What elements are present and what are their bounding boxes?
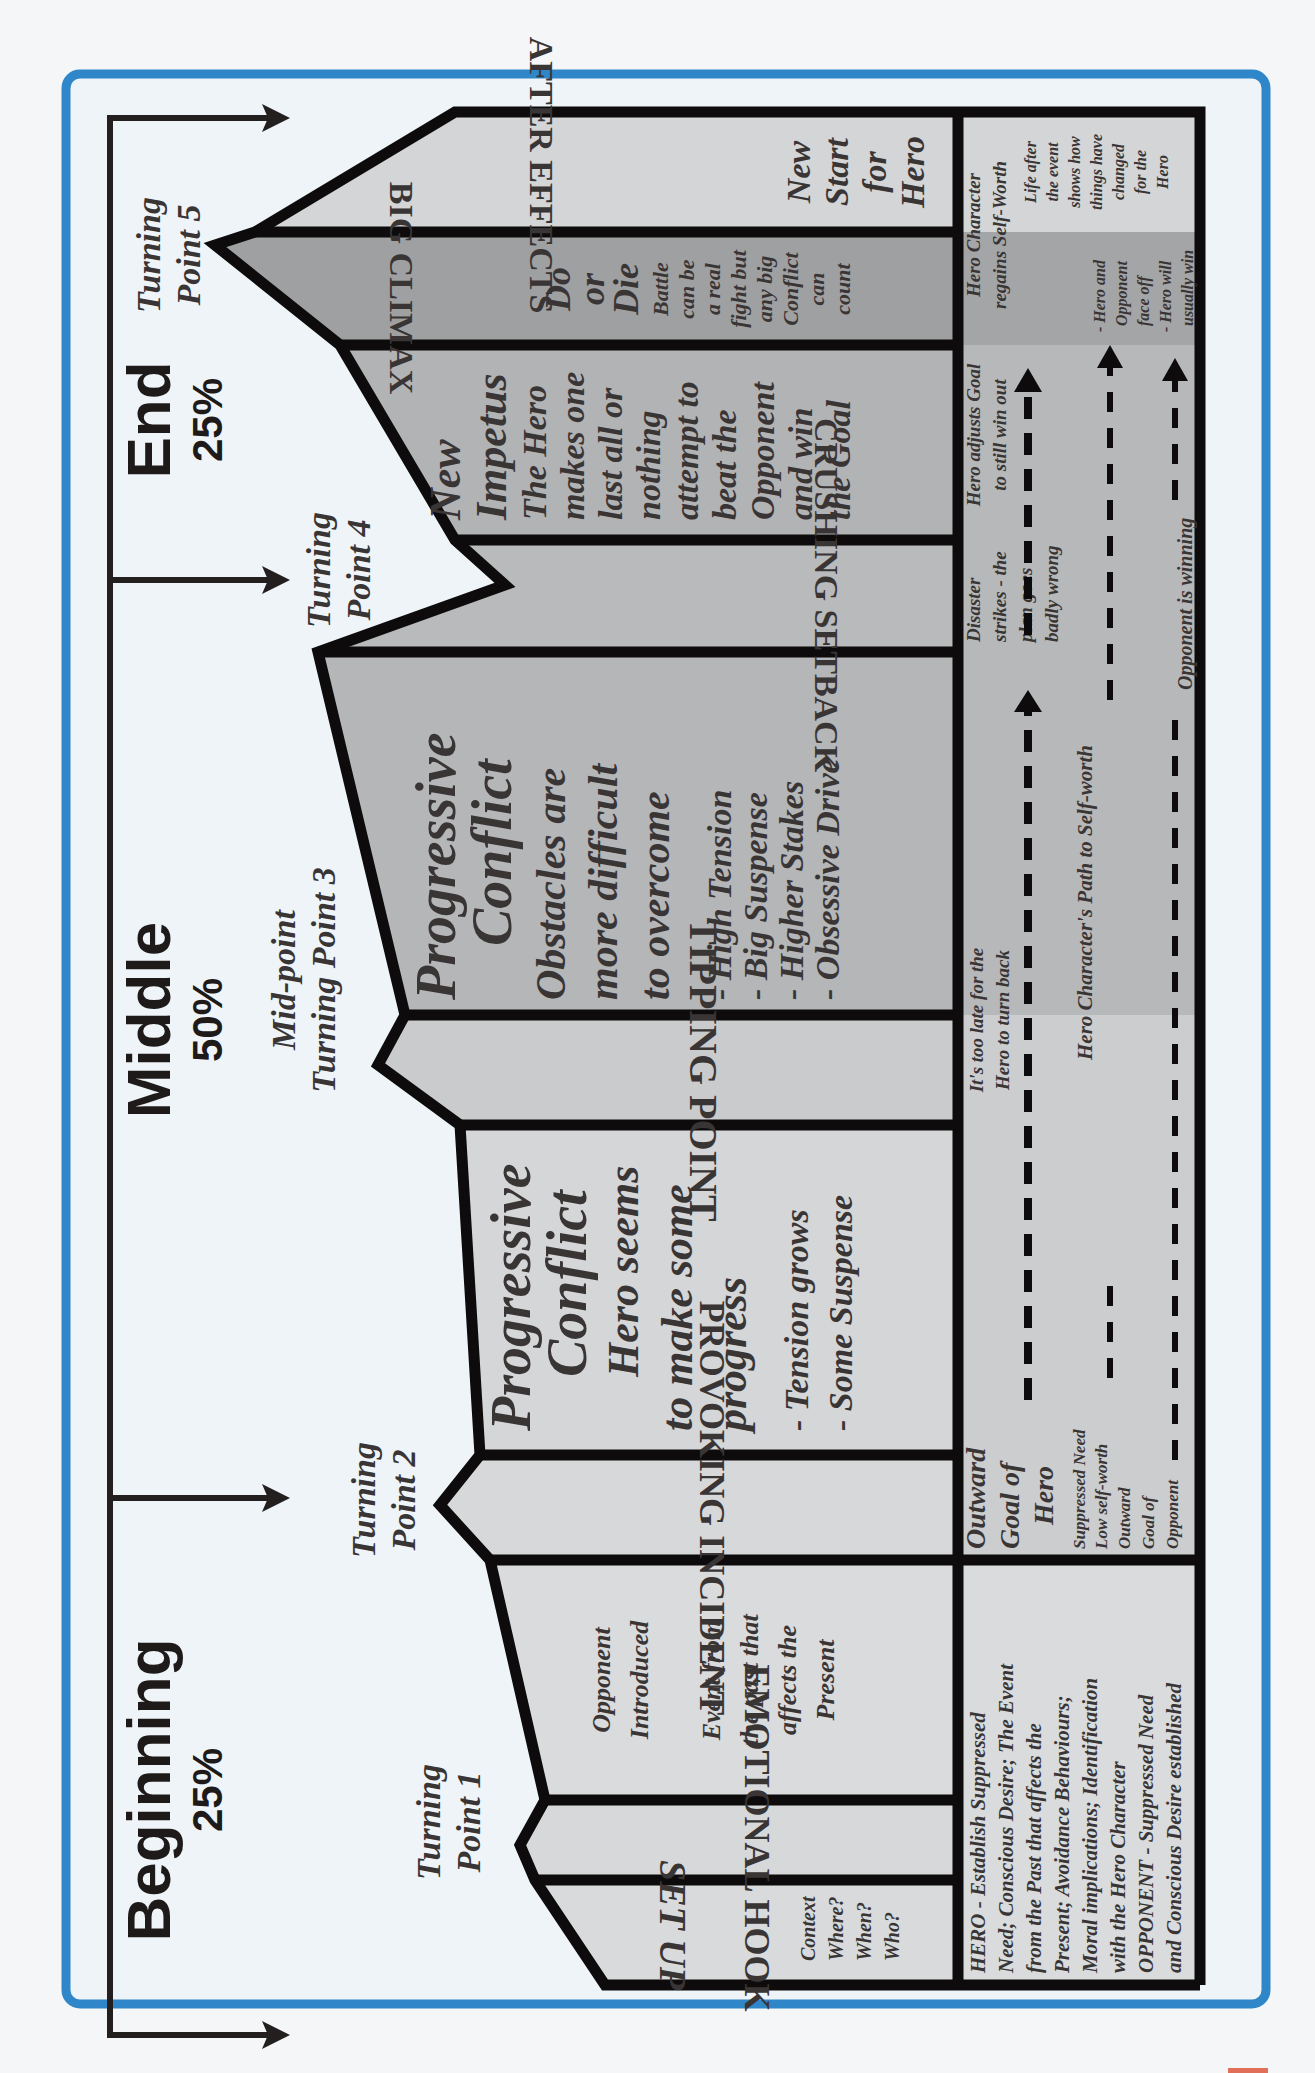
svg-text:Hero Character's Path to Self-: Hero Character's Path to Self-worth xyxy=(1073,745,1097,1061)
svg-text:Hero: Hero xyxy=(894,136,931,209)
svg-text:Turning: Turning xyxy=(345,1442,382,1558)
svg-text:to overcome: to overcome xyxy=(632,791,678,1000)
svg-text:Beginning: Beginning xyxy=(114,1638,183,1941)
act-end: End 25% xyxy=(114,361,231,478)
svg-text:affects the: affects the xyxy=(773,1625,802,1735)
svg-text:badly wrong: badly wrong xyxy=(1041,545,1062,642)
svg-text:Mid-point: Mid-point xyxy=(265,909,302,1051)
svg-text:Obstacles are: Obstacles are xyxy=(528,768,574,1000)
svg-text:Disaster: Disaster xyxy=(963,577,984,643)
svg-text:- Big Suspense: - Big Suspense xyxy=(737,792,774,1000)
svg-text:Present; Avoidance Behaviours;: Present; Avoidance Behaviours; xyxy=(1050,1695,1074,1974)
svg-text:BIG CLIMAX: BIG CLIMAX xyxy=(383,182,420,395)
svg-text:can: can xyxy=(804,273,829,306)
svg-text:for: for xyxy=(856,150,893,192)
svg-text:New: New xyxy=(421,439,470,521)
svg-text:Conflict: Conflict xyxy=(536,1189,598,1377)
svg-text:Point 2: Point 2 xyxy=(385,1449,422,1551)
svg-text:Turning: Turning xyxy=(300,512,337,628)
svg-text:Start: Start xyxy=(818,136,855,206)
svg-text:Moral implications; Identifica: Moral implications; Identification xyxy=(1078,1678,1102,1974)
svg-text:- High Tension: - High Tension xyxy=(701,790,738,1000)
svg-text:Turning: Turning xyxy=(130,197,167,313)
big-climax-title: BIG CLIMAX xyxy=(383,182,420,395)
svg-text:Need; Conscious Desire; The Ev: Need; Conscious Desire; The Event xyxy=(994,1663,1018,1974)
svg-text:When?: When? xyxy=(853,1902,875,1961)
svg-text:and win: and win xyxy=(782,408,819,520)
band-path-to-self-worth: Hero Character's Path to Self-worth xyxy=(1073,745,1097,1061)
svg-text:Turning Point 3: Turning Point 3 xyxy=(305,867,342,1092)
svg-text:- Hero will: - Hero will xyxy=(1157,260,1174,332)
svg-text:Present: Present xyxy=(811,1639,840,1722)
svg-text:Conflict: Conflict xyxy=(778,251,803,325)
svg-text:nothing: nothing xyxy=(630,410,667,520)
svg-text:Progressive: Progressive xyxy=(480,1163,542,1432)
svg-text:AFTER EFFECTS: AFTER EFFECTS xyxy=(523,37,560,314)
svg-text:Low self-worth: Low self-worth xyxy=(1092,1444,1111,1550)
svg-text:- Hero and: - Hero and xyxy=(1091,259,1108,332)
svg-text:Conflict: Conflict xyxy=(461,758,523,946)
svg-text:Hero Character: Hero Character xyxy=(963,172,984,298)
svg-text:Point 4: Point 4 xyxy=(340,519,377,621)
svg-text:beat the: beat the xyxy=(706,410,743,520)
svg-text:things have: things have xyxy=(1088,134,1106,210)
svg-text:the Goal: the Goal xyxy=(820,400,857,521)
svg-text:Introduced: Introduced xyxy=(625,1620,654,1740)
svg-text:It's too late for the: It's too late for the xyxy=(966,947,987,1093)
band-opponent-winning: Opponent is winning xyxy=(1174,518,1197,690)
svg-text:Hero seems: Hero seems xyxy=(599,1166,648,1378)
set-up-title: SET UP xyxy=(652,1860,694,1991)
svg-text:more difficult: more difficult xyxy=(580,763,626,1000)
svg-text:HERO - Establish Suppressed: HERO - Establish Suppressed xyxy=(966,1712,990,1974)
svg-text:from the Past that affects the: from the Past that affects the xyxy=(1022,1723,1046,1973)
after-effects-title: AFTER EFFECTS xyxy=(523,37,560,314)
svg-text:- Higher Stakes: - Higher Stakes xyxy=(773,781,810,1000)
svg-text:Life after: Life after xyxy=(1022,140,1040,204)
svg-text:attempt to: attempt to xyxy=(668,381,705,520)
svg-text:Hero: Hero xyxy=(1028,1466,1059,1526)
svg-text:Goal of: Goal of xyxy=(994,1460,1025,1549)
svg-text:the past that: the past that xyxy=(735,1613,764,1745)
svg-text:End: End xyxy=(114,361,183,478)
svg-text:Suppressed Need: Suppressed Need xyxy=(1070,1429,1089,1549)
svg-text:last all or: last all or xyxy=(592,387,629,520)
svg-text:25%: 25% xyxy=(184,1748,231,1832)
svg-text:Who?: Who? xyxy=(881,1912,903,1961)
svg-text:50%: 50% xyxy=(184,978,231,1062)
svg-text:Outward: Outward xyxy=(960,1447,991,1549)
svg-text:to still win out: to still win out xyxy=(989,379,1010,491)
svg-text:- Tension grows: - Tension grows xyxy=(778,1209,815,1431)
svg-text:Turning: Turning xyxy=(410,1764,447,1880)
svg-text:Impetus: Impetus xyxy=(467,373,516,521)
svg-text:Point 5: Point 5 xyxy=(170,204,207,306)
svg-text:25%: 25% xyxy=(184,378,231,462)
svg-text:for the: for the xyxy=(1132,150,1150,194)
svg-text:Opponent: Opponent xyxy=(1113,261,1131,326)
svg-text:strikes - the: strikes - the xyxy=(989,551,1010,643)
svg-text:any big: any big xyxy=(752,256,777,323)
page-corner-mark xyxy=(1228,2068,1268,2073)
svg-text:Battle: Battle xyxy=(648,262,673,317)
svg-text:Where?: Where? xyxy=(825,1897,847,1961)
svg-text:OPPONENT - Suppressed Need: OPPONENT - Suppressed Need xyxy=(1134,1694,1158,1973)
svg-text:Goal of: Goal of xyxy=(1139,1494,1158,1549)
svg-text:a real: a real xyxy=(700,262,725,315)
svg-text:Context: Context xyxy=(797,1895,819,1961)
svg-text:with the Hero Character: with the Hero Character xyxy=(1106,1760,1130,1973)
svg-text:Hero adjusts Goal: Hero adjusts Goal xyxy=(963,363,984,507)
svg-text:changed: changed xyxy=(1110,143,1128,200)
svg-text:- Some Suspense: - Some Suspense xyxy=(822,1195,859,1431)
svg-text:the event: the event xyxy=(1044,142,1061,202)
svg-text:regains Self-Worth: regains Self-Worth xyxy=(989,161,1010,309)
svg-text:New: New xyxy=(780,141,817,205)
svg-text:- Obsessive Drive: - Obsessive Drive xyxy=(809,758,846,1000)
svg-text:Point 1: Point 1 xyxy=(450,1771,487,1873)
svg-text:Hero: Hero xyxy=(1154,155,1171,190)
svg-text:Opponent: Opponent xyxy=(1163,1479,1182,1549)
svg-text:Opponent is winning: Opponent is winning xyxy=(1174,518,1197,690)
svg-text:Progressive: Progressive xyxy=(405,732,467,1001)
svg-text:progress: progress xyxy=(707,1277,756,1435)
svg-text:shows how: shows how xyxy=(1066,136,1083,209)
svg-text:The Hero: The Hero xyxy=(516,385,553,520)
svg-text:can be: can be xyxy=(674,259,699,319)
